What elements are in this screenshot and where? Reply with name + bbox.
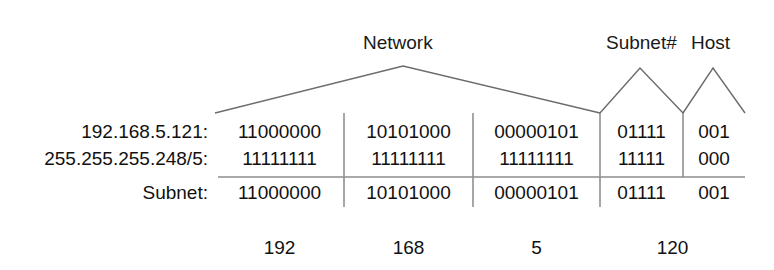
cell-ip-octet3: 00000101 <box>473 118 600 145</box>
row-label-subnet-result: Subnet: <box>143 179 209 206</box>
cell-ip-subnet-bits: 01111 <box>600 118 683 145</box>
cell-ip-octet2: 10101000 <box>344 118 473 145</box>
row-label-subnet-mask: 255.255.255.248/5: <box>44 145 208 172</box>
cell-mask-octet3: 11111111 <box>473 145 600 172</box>
cell-mask-octet2: 11111111 <box>344 145 473 172</box>
row-label-ip-address: 192.168.5.121: <box>81 118 208 145</box>
cell-subnet-octet1: 11000000 <box>215 179 344 206</box>
bracket-label-subnet-number: Subnet# <box>606 33 677 52</box>
decimal-octet2: 168 <box>344 236 473 260</box>
cell-subnet-octet2: 10101000 <box>344 179 473 206</box>
cell-mask-subnet-bits: 11111 <box>600 145 683 172</box>
network-bracket <box>215 66 600 113</box>
cell-ip-octet1: 11000000 <box>215 118 344 145</box>
cell-subnet-octet3: 00000101 <box>473 179 600 206</box>
decimal-octet4: 120 <box>600 236 745 260</box>
table-row-subnet-mask: 255.255.255.248/5: 11111111 11111111 111… <box>0 145 774 172</box>
decimal-octet1: 192 <box>215 236 344 260</box>
bracket-label-network: Network <box>363 33 433 52</box>
cell-mask-octet1: 11111111 <box>215 145 344 172</box>
bracket-label-host: Host <box>691 33 730 52</box>
cell-subnet-host-bits: 001 <box>683 179 745 206</box>
cell-mask-host-bits: 000 <box>683 145 745 172</box>
host-bracket <box>683 68 745 113</box>
cell-ip-host-bits: 001 <box>683 118 745 145</box>
decimal-octet3: 5 <box>473 236 600 260</box>
table-row-ip-address: 192.168.5.121: 11000000 10101000 0000010… <box>0 118 774 145</box>
table-row-subnet-result: Subnet: 11000000 10101000 00000101 01111… <box>0 179 774 206</box>
subnet-number-bracket <box>600 68 683 113</box>
cell-subnet-subnet-bits: 01111 <box>600 179 683 206</box>
